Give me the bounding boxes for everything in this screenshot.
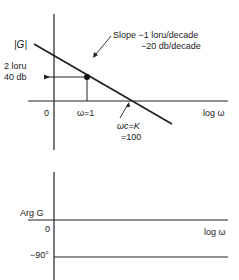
slope-pointer: [96, 36, 111, 54]
omega1-point: [84, 74, 90, 80]
slope-label-db: −20 db/decade: [141, 41, 201, 51]
magnitude-axis-label: |G|: [14, 40, 27, 50]
crossover-value-label: =100: [121, 132, 141, 142]
bode-diagram: [0, 0, 239, 280]
slope-label-loru: Slope −1 loru/decade: [113, 30, 198, 40]
level-label-db: 40 db: [4, 72, 27, 82]
omega1-label: ω=1: [77, 108, 94, 118]
level-arrow-icon: [44, 75, 50, 80]
phase-axis-label: Arg G: [20, 208, 44, 218]
phase-minus90-label: −90°: [30, 250, 49, 260]
crossover-arrow-icon: [126, 102, 130, 107]
level-label-loru: 2 loru: [4, 61, 27, 71]
phase-zero-label: 0: [45, 224, 50, 234]
magnitude-x-axis-label: log ω: [203, 108, 225, 118]
magnitude-asymptote-line: [34, 44, 172, 124]
magnitude-origin-label: 0: [44, 108, 49, 118]
phase-x-axis-label: log ω: [204, 227, 226, 237]
crossover-label: ωc=K: [117, 121, 140, 131]
